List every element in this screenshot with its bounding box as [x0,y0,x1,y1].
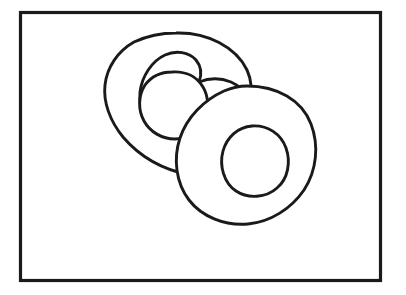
line-drawing-svg [0,0,406,295]
drawing-canvas: Two overlapping donuts Black ink line dr… [0,0,406,295]
